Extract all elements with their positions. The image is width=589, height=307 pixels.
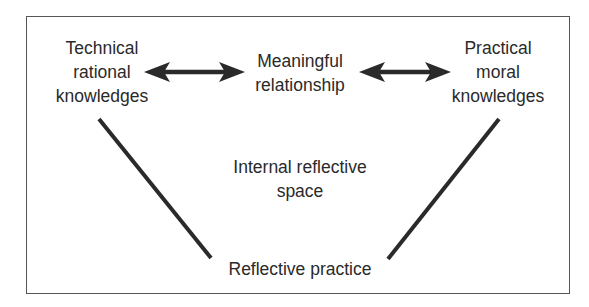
node-text-line: rational: [42, 60, 162, 84]
line-practical-reflective: [388, 119, 499, 259]
node-meaningful-relationship: Meaningful relationship: [244, 49, 356, 97]
node-text-line: Practical: [436, 36, 560, 60]
node-reflective-practice: Reflective practice: [200, 257, 400, 281]
line-technical-reflective: [99, 119, 211, 258]
node-text-line: Meaningful: [244, 49, 356, 73]
node-text-line: Internal reflective: [210, 155, 390, 179]
node-technical-rational-knowledges: Technical rational knowledges: [42, 36, 162, 108]
node-text-line: knowledges: [436, 84, 560, 108]
node-text-line: moral: [436, 60, 560, 84]
node-text-line: space: [210, 179, 390, 203]
node-internal-reflective-space: Internal reflective space: [210, 155, 390, 203]
node-text-line: Technical: [42, 36, 162, 60]
node-practical-moral-knowledges: Practical moral knowledges: [436, 36, 560, 108]
node-text-line: Reflective practice: [200, 257, 400, 281]
node-text-line: knowledges: [42, 84, 162, 108]
node-text-line: relationship: [244, 73, 356, 97]
